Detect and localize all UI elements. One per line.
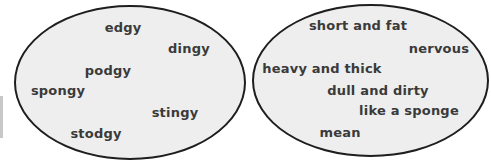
word-label: podgy <box>85 63 131 78</box>
word-label: spongy <box>31 83 85 98</box>
word-label: like a sponge <box>359 103 459 118</box>
edge-fragment <box>0 96 3 138</box>
word-label: stodgy <box>70 126 121 141</box>
word-label: nervous <box>409 41 469 56</box>
word-label: dingy <box>168 41 210 56</box>
word-label: stingy <box>152 105 199 120</box>
word-label: mean <box>319 125 360 140</box>
word-label: short and fat <box>309 18 407 33</box>
word-label: edgy <box>105 20 142 35</box>
word-label: heavy and thick <box>262 61 381 76</box>
word-label: dull and dirty <box>327 83 429 98</box>
